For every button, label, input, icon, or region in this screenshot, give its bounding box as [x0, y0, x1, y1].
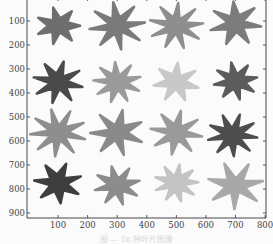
x-tick-label: 200 — [80, 220, 96, 230]
leaf-r1-c4 — [211, 1, 262, 44]
y-tick-label: 600 — [9, 136, 25, 146]
leaf-r1-c2 — [90, 2, 145, 49]
x-tick-label: 400 — [139, 220, 155, 230]
y-tick-label: 900 — [9, 208, 25, 218]
leaf-r4-c4 — [208, 164, 263, 210]
y-tick-label: 700 — [9, 160, 25, 170]
leaf-r4-c1 — [34, 164, 81, 204]
leaf-r1-c1 — [38, 8, 80, 44]
leaf-r2-c3 — [154, 63, 199, 101]
x-tick-label: 600 — [198, 220, 214, 230]
leaf-r3-c4 — [208, 115, 257, 157]
leaf-r1-c3 — [150, 3, 203, 48]
leaf-r2-c2 — [93, 62, 140, 102]
leaf-silhouettes — [30, 1, 263, 209]
x-tick-label: 800 — [257, 220, 273, 230]
x-tick-label: 300 — [109, 220, 125, 230]
x-tick-label: 700 — [227, 220, 243, 230]
leaf-r3-c3 — [151, 111, 202, 155]
y-tick-label: 400 — [9, 88, 25, 98]
leaf-r3-c1 — [30, 110, 85, 157]
x-tick-label: 500 — [168, 220, 184, 230]
leaf-grid-figure: 100200300400500600700800 100200300400500… — [0, 0, 273, 244]
y-tick-label: 100 — [9, 16, 25, 26]
leaf-r4-c2 — [95, 166, 140, 204]
leaf-r2-c4 — [214, 63, 257, 100]
y-tick-label: 800 — [9, 184, 25, 194]
leaf-r2-c1 — [34, 62, 83, 103]
y-tick-label: 200 — [9, 40, 25, 50]
y-tick-label: 500 — [9, 112, 25, 122]
y-tick-label: 300 — [9, 64, 25, 74]
figure-caption: 图 — 16 种叶片图像 — [0, 233, 273, 244]
leaf-r4-c3 — [155, 165, 198, 202]
x-tick-label: 100 — [50, 220, 66, 230]
leaf-r3-c2 — [90, 110, 142, 155]
